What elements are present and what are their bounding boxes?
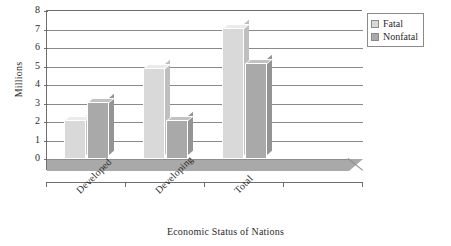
y-axis-tick-label: 3 [24, 98, 40, 108]
chart-legend: FatalNonfatal [367, 13, 424, 47]
legend-item: Nonfatal [371, 30, 418, 43]
x-axis-tick-mark [362, 182, 363, 187]
y-axis-tick-label: 4 [24, 79, 40, 89]
bar-total-fatal [222, 28, 244, 159]
bar-side-face [267, 55, 272, 155]
y-axis-tick-label: 8 [24, 5, 40, 15]
y-axis-title: Millions [13, 40, 24, 120]
bar-front-face [64, 120, 86, 159]
y-axis-tick-label: 6 [24, 42, 40, 52]
bars-layer [47, 11, 363, 171]
y-axis-tick-label: 2 [24, 116, 40, 126]
x-axis-tick-mark [204, 182, 205, 187]
y-axis-tick-label: 5 [24, 61, 40, 71]
y-axis-tick-label: 1 [24, 135, 40, 145]
bar-front-face [222, 28, 244, 159]
bar-front-face [87, 102, 109, 159]
plot-area [46, 10, 362, 170]
bar-chart: Millions 012345678 DevelopedDevelopingTo… [0, 0, 451, 246]
y-axis-tick-label: 0 [24, 153, 40, 163]
bar-developed-nonfatal [87, 102, 109, 159]
bar-front-face [245, 63, 267, 159]
y-axis-tick-label: 7 [24, 24, 40, 34]
bar-developed-fatal [64, 120, 86, 159]
legend-item-label: Fatal [383, 18, 403, 29]
bar-front-face [166, 120, 188, 159]
x-axis-tick-mark [125, 182, 126, 187]
legend-item: Fatal [371, 17, 418, 30]
bar-side-face [109, 93, 114, 155]
legend-item-label: Nonfatal [383, 31, 418, 42]
bar-front-face [143, 68, 165, 159]
bar-total-nonfatal [245, 63, 267, 159]
x-axis-title: Economic Status of Nations [0, 226, 451, 237]
x-axis-tick-mark [283, 182, 284, 187]
y-axis-tick-labels: 012345678 [24, 10, 40, 170]
legend-swatch-icon [371, 33, 379, 41]
legend-swatch-icon [371, 20, 379, 28]
bar-developing-nonfatal [166, 120, 188, 159]
x-axis-category-label: Total [232, 173, 255, 196]
x-axis-tick-mark [46, 182, 47, 187]
bar-developing-fatal [143, 68, 165, 159]
